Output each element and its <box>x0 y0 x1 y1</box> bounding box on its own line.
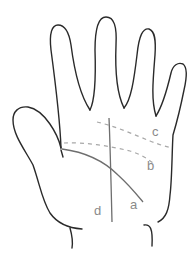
label-a: a <box>130 197 138 212</box>
ring-finger-outline <box>124 29 156 116</box>
wrist-right <box>144 225 152 246</box>
middle-finger-outline <box>90 17 124 110</box>
little-finger-outline <box>156 63 186 222</box>
line-a <box>62 149 143 202</box>
thumb-outline <box>13 107 82 229</box>
line-b <box>64 143 153 163</box>
label-d: d <box>94 203 101 218</box>
label-c: c <box>152 124 159 139</box>
thumb-inner-crease <box>61 150 63 157</box>
line-c <box>97 122 172 148</box>
label-b: b <box>147 158 154 173</box>
wrist-left <box>70 228 72 248</box>
palm-diagram: c b d a <box>0 0 196 269</box>
index-finger-outline <box>50 25 90 148</box>
